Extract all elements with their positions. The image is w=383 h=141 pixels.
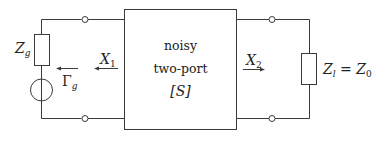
- source-reflection-label: Γg: [62, 73, 77, 91]
- port2-bottom-terminal: [269, 116, 275, 122]
- gamma-g-arrow-icon: [56, 67, 78, 71]
- two-port-title-line1: noisy: [124, 38, 237, 53]
- source-impedance-resistor: [35, 35, 50, 66]
- source-impedance-label: Zg: [15, 40, 31, 58]
- two-port-title-line2: two-port: [124, 61, 237, 76]
- circuit-diagram: Zg Γg X1 noisy two-port [S] X2 Zl = Z0: [0, 0, 383, 141]
- port1-bottom-terminal: [82, 116, 88, 122]
- x2-wave-label: X2: [246, 52, 262, 70]
- load-impedance-resistor: [302, 54, 317, 85]
- port2-top-terminal: [269, 17, 275, 23]
- load-impedance-label: Zl = Z0: [323, 61, 372, 79]
- port1-top-terminal: [82, 17, 88, 23]
- x1-wave-label: X1: [100, 51, 116, 69]
- scattering-matrix-label: [S]: [124, 83, 237, 99]
